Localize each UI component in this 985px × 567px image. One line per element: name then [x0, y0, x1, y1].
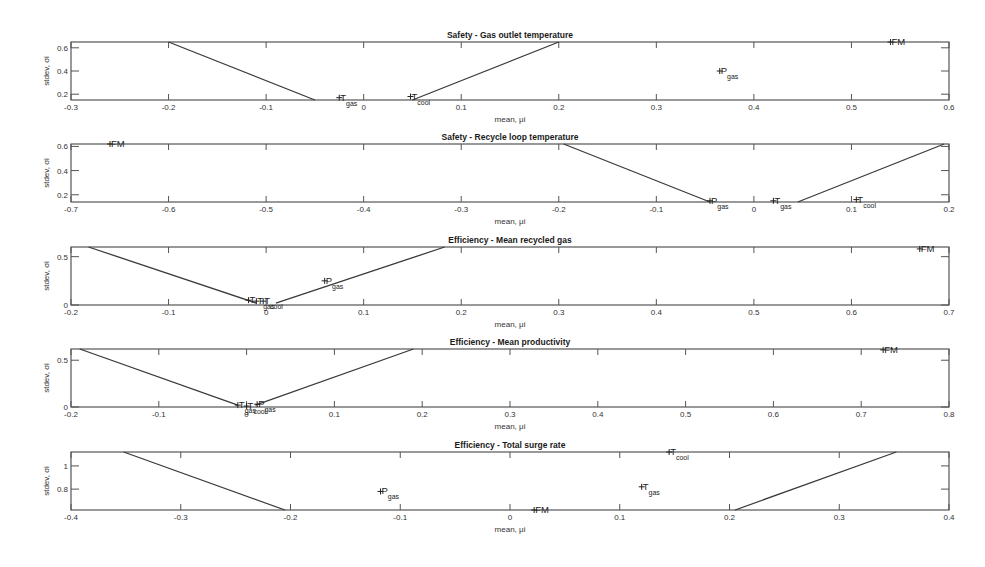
axes-frame — [71, 42, 949, 100]
x-axis-label: mean, μi — [495, 422, 526, 431]
x-tick-label: 0.5 — [748, 308, 760, 317]
x-tick-label: -0.3 — [174, 513, 188, 522]
x-tick-label: 0.4 — [748, 103, 760, 112]
x-tick-label: 0.6 — [846, 308, 858, 317]
y-axis-label: stdev, σi — [42, 363, 51, 393]
y-tick-label: 0.4 — [57, 167, 69, 176]
x-tick-label: 0.4 — [943, 513, 955, 522]
x-tick-label: 0.3 — [553, 308, 565, 317]
x-axis-label: mean, μi — [495, 525, 526, 534]
x-tick-label: -0.1 — [259, 103, 273, 112]
point-label: FM — [884, 344, 898, 355]
y-axis-label: stdev, σi — [42, 56, 51, 86]
y-tick-label: 1 — [64, 462, 69, 471]
subplot-3: Efficiency - Mean recycled gas-0.2-0.100… — [42, 235, 955, 329]
point-label: T — [250, 294, 256, 305]
x-tick-label: -0.5 — [259, 205, 273, 214]
x-tick-label: 0.5 — [846, 103, 858, 112]
subplot-title: Safety - Gas outlet temperature — [447, 30, 573, 40]
x-tick-label: 0.2 — [943, 205, 955, 214]
axes-frame — [71, 144, 949, 202]
x-tick-label: -0.1 — [393, 513, 407, 522]
x-tick-label: 0.8 — [943, 410, 955, 419]
x-tick-label: -0.2 — [552, 205, 566, 214]
x-tick-label: -0.2 — [284, 513, 298, 522]
x-tick-label: -0.7 — [64, 205, 78, 214]
subplot-5: Efficiency - Total surge rate-0.4-0.3-0.… — [42, 440, 955, 534]
x-tick-label: 0.3 — [834, 513, 846, 522]
x-tick-label: 0.3 — [651, 103, 663, 112]
x-tick-label: 0.2 — [417, 410, 429, 419]
y-tick-label: 0.5 — [57, 356, 69, 365]
x-tick-label: 0.2 — [456, 308, 468, 317]
x-tick-label: 0.5 — [680, 410, 692, 419]
x-tick-label: 0.1 — [456, 103, 468, 112]
x-tick-label: 0.2 — [553, 103, 565, 112]
y-tick-label: 0 — [64, 403, 69, 412]
x-tick-label: -0.3 — [64, 103, 78, 112]
x-tick-label: 0.1 — [614, 513, 626, 522]
x-tick-label: 0 — [508, 513, 513, 522]
x-tick-label: -0.1 — [162, 308, 176, 317]
subplot-title: Efficiency - Total surge rate — [455, 440, 566, 450]
subplot-title: Safety - Recycle loop temperature — [442, 132, 579, 142]
point-label: FM — [535, 504, 549, 515]
point-label: FM — [921, 243, 935, 254]
x-tick-label: -0.1 — [152, 410, 166, 419]
x-tick-label: 0.7 — [943, 308, 955, 317]
y-axis-label: stdev, σi — [42, 466, 51, 496]
y-tick-label: 0.2 — [57, 90, 69, 99]
y-axis-label: stdev, σi — [42, 158, 51, 188]
y-tick-label: 0.5 — [57, 253, 69, 262]
y-axis-label: stdev, σi — [42, 261, 51, 291]
x-axis-label: mean, μi — [495, 115, 526, 124]
point-label: FM — [111, 138, 125, 149]
x-tick-label: -0.2 — [162, 103, 176, 112]
subplot-title: Efficiency - Mean productivity — [450, 337, 571, 347]
axes-frame — [71, 349, 949, 407]
x-tick-label: 0.6 — [768, 410, 780, 419]
y-tick-label: 0.6 — [57, 44, 69, 53]
x-tick-label: 0.4 — [651, 308, 663, 317]
x-tick-label: 0.1 — [329, 410, 341, 419]
y-tick-label: 0.4 — [57, 67, 69, 76]
axes-frame — [71, 247, 949, 305]
x-tick-label: -0.4 — [64, 513, 78, 522]
x-tick-label: 0.1 — [358, 308, 370, 317]
figure-canvas: Safety - Gas outlet temperature-0.3-0.2-… — [0, 0, 985, 567]
x-tick-label: 0.1 — [846, 205, 858, 214]
x-tick-label: -0.4 — [357, 205, 371, 214]
point-label: FM — [891, 36, 905, 47]
x-tick-label: -0.3 — [454, 205, 468, 214]
x-tick-label: -0.6 — [162, 205, 176, 214]
subplot-4: Efficiency - Mean productivity-0.2-0.100… — [42, 337, 955, 431]
x-axis-label: mean, μi — [495, 217, 526, 226]
x-tick-label: 0 — [752, 205, 757, 214]
x-tick-label: 0.3 — [504, 410, 516, 419]
x-tick-label: -0.1 — [649, 205, 663, 214]
x-tick-label: 0.4 — [592, 410, 604, 419]
y-tick-label: 0 — [64, 301, 69, 310]
x-tick-label: 0 — [361, 103, 366, 112]
x-tick-label: 0.6 — [943, 103, 955, 112]
y-tick-label: 0.6 — [57, 142, 69, 151]
y-tick-label: 0.8 — [57, 485, 69, 494]
x-tick-label: 0.2 — [724, 513, 736, 522]
subplot-title: Efficiency - Mean recycled gas — [448, 235, 572, 245]
x-tick-label: 0.7 — [856, 410, 868, 419]
subplot-1: Safety - Gas outlet temperature-0.3-0.2-… — [42, 30, 955, 124]
x-axis-label: mean, μi — [495, 320, 526, 329]
y-tick-label: 0.2 — [57, 191, 69, 200]
subplot-2: Safety - Recycle loop temperature-0.7-0.… — [42, 132, 955, 226]
